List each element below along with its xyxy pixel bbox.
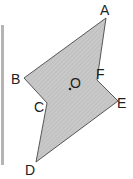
vertex-label-a: A: [100, 2, 110, 18]
vertex-label-c: C: [34, 99, 44, 115]
vertex-label-f: F: [96, 66, 105, 82]
vertex-label-b: B: [11, 71, 20, 87]
center-label-o: O: [70, 75, 81, 91]
vertex-label-e: E: [117, 95, 126, 111]
vertex-label-d: D: [25, 162, 35, 178]
geometry-diagram: A B C D E F O: [0, 0, 133, 179]
